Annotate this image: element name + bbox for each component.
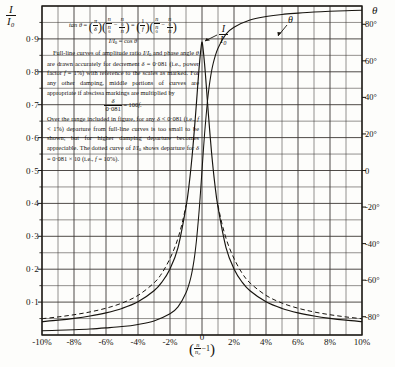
formula-tan-theta: tan θ = (πδ)(nn0 − n0n) = (1f)(nn0 − n0n… — [47, 16, 199, 35]
formula-amplitude: I/I0 = cos θ — [47, 36, 199, 47]
phase-curve-label: θ — [288, 14, 293, 25]
explanatory-text-block: tan θ = (πδ)(nn0 − n0n) = (1f)(nn0 − n0n… — [47, 16, 199, 165]
paragraph-one: Full-line curves of amplitude ratio I/I0… — [47, 48, 199, 97]
phase-label-arrowhead — [277, 32, 281, 36]
formula-multiplier: δ0·081 = 100f. — [47, 98, 199, 113]
amplitude-label-denominator: I₀ — [219, 35, 228, 45]
amplitude-curve-label: I I₀ — [219, 24, 228, 45]
paragraph-two: Over the range included in figure, for a… — [47, 114, 199, 163]
